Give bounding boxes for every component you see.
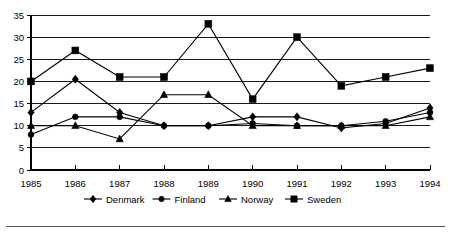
data-point-finland	[28, 132, 34, 138]
y-axis-tick-label: 0	[19, 165, 24, 176]
data-point-sweden	[28, 78, 35, 85]
y-axis-tick-label: 30	[13, 32, 24, 43]
legend-entry-finland: Finland	[153, 194, 206, 205]
x-axis-tick-label: 1990	[242, 178, 263, 189]
x-axis-tick-label: 1985	[20, 178, 41, 189]
y-axis-tick-label: 15	[13, 98, 24, 109]
y-axis-tick-label: 25	[13, 54, 24, 65]
data-point-sweden	[294, 34, 301, 41]
grid-lines	[31, 15, 430, 170]
line-chart-figure: 05101520253035 1985198619871988198919901…	[0, 0, 451, 233]
chart-legend: DenmarkFinlandNorwaySweden	[84, 194, 341, 205]
x-axis-tick-label: 1989	[198, 178, 219, 189]
data-point-denmark	[28, 108, 34, 116]
x-axis-tick-label: 1986	[65, 178, 86, 189]
legend-entry-denmark: Denmark	[84, 194, 145, 205]
data-point-sweden	[382, 74, 389, 81]
axes	[31, 15, 430, 170]
legend-label: Sweden	[307, 194, 341, 205]
series-line-sweden	[31, 24, 430, 99]
y-axis-tick-label: 35	[13, 10, 24, 21]
data-point-sweden	[161, 74, 168, 81]
data-point-denmark	[250, 113, 256, 121]
x-axis-tick-label: 1993	[375, 178, 396, 189]
y-axis-tick-labels: 05101520253035	[13, 10, 24, 176]
y-axis-tick-label: 5	[19, 142, 24, 153]
x-axis-tick-label: 1988	[153, 178, 174, 189]
data-point-finland	[117, 114, 123, 120]
series-sweden	[28, 20, 434, 102]
legend-label: Denmark	[106, 194, 145, 205]
series-finland	[28, 110, 433, 138]
legend-marker-diamond	[90, 195, 96, 202]
y-axis-tick-label: 20	[13, 76, 24, 87]
data-point-sweden	[249, 96, 256, 103]
legend-entry-sweden: Sweden	[285, 194, 341, 205]
legend-marker-square	[291, 196, 297, 202]
y-axis-tick-label: 10	[13, 120, 24, 131]
data-point-sweden	[72, 47, 79, 54]
legend-entry-norway: Norway	[219, 194, 273, 205]
data-point-finland	[161, 123, 167, 129]
legend-label: Norway	[241, 194, 273, 205]
legend-label: Finland	[175, 194, 206, 205]
chart-svg: 05101520253035 1985198619871988198919901…	[0, 0, 451, 233]
data-point-finland	[205, 123, 211, 129]
data-point-sweden	[205, 20, 212, 27]
x-axis-tick-labels: 1985198619871988198919901991199219931994	[20, 178, 440, 189]
x-axis-tick-label: 1994	[419, 178, 440, 189]
legend-marker-circle	[159, 196, 164, 201]
data-point-denmark	[294, 113, 300, 121]
x-axis-tick-label: 1987	[109, 178, 130, 189]
data-point-sweden	[338, 82, 345, 89]
data-point-denmark	[72, 75, 78, 83]
data-point-sweden	[116, 74, 123, 81]
x-axis-tick-label: 1991	[286, 178, 307, 189]
axis-tick-marks	[27, 15, 430, 170]
data-point-sweden	[427, 65, 434, 72]
series-line-finland	[31, 112, 430, 134]
x-axis-tick-label: 1992	[331, 178, 352, 189]
data-point-finland	[72, 114, 78, 120]
